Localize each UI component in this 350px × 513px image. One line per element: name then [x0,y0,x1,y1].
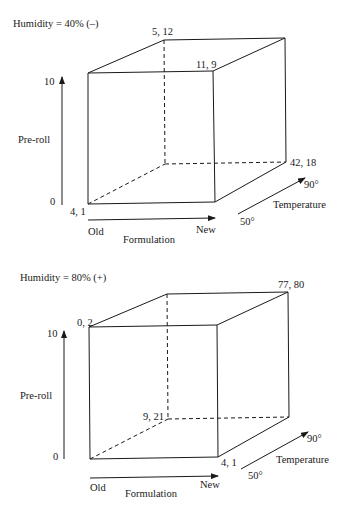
diagram-title: Humidity = 80% (+) [20,272,107,284]
formulation-axis [90,476,218,478]
x-axis-label: Formulation [123,234,176,245]
y-tick-0: 0 [53,451,58,462]
vertex-label: 5, 12 [152,26,173,37]
y-axis-label: Pre-roll [20,390,52,401]
y-axis-label: Pre-roll [18,134,50,145]
cube-diagram-humidity-40: Humidity = 40% (–) 10 0 Pre-roll Old New… [13,18,326,245]
y-tick-10: 10 [47,328,58,339]
z-low-label: 50° [240,216,255,227]
formulation-axis [88,218,215,220]
z-axis-label: Temperature [273,199,326,210]
diagram-title: Humidity = 40% (–) [13,18,99,30]
y-tick-10: 10 [44,76,55,87]
x-high-label: New [200,479,220,490]
factorial-cube-diagrams: Humidity = 40% (–) 10 0 Pre-roll Old New… [0,0,350,513]
vertex-label: 4, 1 [221,457,237,468]
z-high-label: 90° [304,179,319,190]
cube-diagram-humidity-80: Humidity = 80% (+) 10 0 Pre-roll Old New… [20,272,329,499]
vertex-label: 77, 80 [278,279,304,290]
z-low-label: 50° [248,470,263,481]
cube-edges [88,38,286,204]
vertex-label: 9, 21 [143,411,164,422]
vertex-label: 4, 1 [70,206,86,217]
cube-edges [89,292,289,459]
x-low-label: Old [90,482,107,493]
vertex-label: 0, 2 [77,317,93,328]
z-high-label: 90° [307,433,322,444]
y-tick-0: 0 [50,196,55,207]
x-high-label: New [196,224,216,235]
hidden-edges [88,40,286,204]
vertex-label: 11, 9 [196,59,217,70]
vertex-label: 42, 18 [290,157,316,168]
x-axis-label: Formulation [125,488,178,499]
x-low-label: Old [88,226,105,237]
z-axis-label: Temperature [276,454,329,465]
